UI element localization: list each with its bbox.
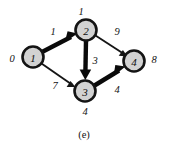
edge-weight-3-4: 4	[114, 84, 120, 95]
edge-2-to-4-line	[96, 36, 125, 55]
node-2-label: 2	[83, 25, 89, 37]
distance-label-node-1: 0	[9, 53, 15, 64]
edge-2-to-3-line	[85, 41, 86, 72]
edge-2-to-3-arrowhead	[80, 69, 92, 80]
distance-label-node-3: 4	[82, 106, 88, 117]
edge-2-to-3	[80, 41, 92, 80]
node-4[interactable]: 4	[124, 51, 145, 72]
node-4-label: 4	[131, 56, 137, 68]
edge-2-to-4	[96, 36, 128, 57]
edge-3-to-4	[95, 65, 126, 86]
edge-weight-2-4: 9	[114, 26, 120, 37]
edge-1-to-2	[42, 31, 78, 52]
edge-1-to-3	[42, 64, 76, 88]
node-3[interactable]: 3	[75, 81, 96, 102]
graph-canvas: 1 2 3 4 1 7 3 9 4 0 1 4 8 (e)	[0, 0, 169, 155]
edge-weight-1-2: 1	[50, 26, 55, 37]
node-2[interactable]: 2	[76, 20, 97, 41]
node-3-label: 3	[81, 86, 88, 98]
edge-weight-1-3: 7	[52, 80, 58, 91]
distance-label-node-2: 1	[78, 6, 83, 17]
distance-label-node-4: 8	[151, 54, 157, 65]
node-1-label: 1	[30, 52, 36, 64]
graph-figure: 1 2 3 4 1 7 3 9 4 0 1 4 8 (e)	[0, 0, 169, 155]
node-1[interactable]: 1	[23, 47, 44, 68]
figure-caption: (e)	[78, 129, 90, 141]
edge-weight-2-3: 3	[91, 55, 97, 66]
